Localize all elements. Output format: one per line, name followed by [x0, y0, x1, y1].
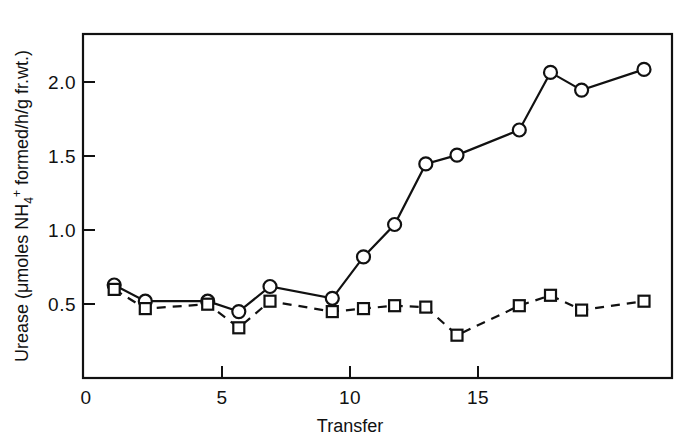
data-point-square-11: [420, 302, 431, 313]
data-point-square-2: [140, 303, 151, 314]
y-axis-title-suffix: formed/h/g fr.wt.): [12, 50, 32, 190]
x-axis-tick-labels: 5 10 15: [216, 387, 489, 408]
data-point-square-18: [639, 296, 650, 307]
data-point-circle-10: [388, 218, 401, 231]
data-point-circle-15: [544, 66, 557, 79]
data-point-square-16: [576, 305, 587, 316]
y-axis-title: Urease (μmoles NH4+ formed/h/g fr.wt.): [10, 50, 36, 362]
data-point-square-9: [358, 303, 369, 314]
data-series-layer: [108, 63, 651, 341]
data-point-square-8: [327, 306, 338, 317]
data-point-square-6: [265, 296, 276, 307]
data-point-square-1: [109, 284, 120, 295]
urease-transfer-line-chart: 2.0 1.5 1.0 0.5 0 5 10 15 Transfer Ureas…: [0, 0, 683, 439]
svg-text:Urease (μmoles NH4+ formed/h/g: Urease (μmoles NH4+ formed/h/g fr.wt.): [10, 50, 36, 362]
data-point-circle-12: [451, 149, 464, 162]
series-line-solid-circles: [114, 69, 644, 311]
data-point-circle-16: [575, 84, 588, 97]
y-tick-label-1-5: 1.5: [48, 146, 76, 167]
series-solid-circles: [108, 63, 651, 318]
data-point-circle-14: [513, 124, 526, 137]
x-axis-ticks: [222, 366, 478, 378]
y-tick-label-2-0: 2.0: [48, 72, 76, 93]
series-dashed-squares: [109, 284, 650, 341]
x-tick-label-10: 10: [339, 387, 361, 408]
figure-container: 2.0 1.5 1.0 0.5 0 5 10 15 Transfer Ureas…: [0, 0, 683, 439]
y-origin-label: 0: [80, 387, 91, 408]
series-line-dashed-squares: [114, 289, 644, 335]
y-tick-label-0-5: 0.5: [48, 294, 76, 315]
data-point-circle-5: [232, 305, 245, 318]
data-point-square-10: [389, 300, 400, 311]
y-axis-title-superscript: +: [10, 190, 24, 197]
y-tick-label-1-0: 1.0: [48, 220, 76, 241]
y-axis-title-prefix: Urease (μmoles NH: [12, 204, 32, 362]
data-point-circle-18: [638, 63, 651, 76]
data-point-square-4: [202, 299, 213, 310]
data-point-square-12: [452, 330, 463, 341]
data-point-square-15: [545, 290, 556, 301]
x-tick-label-15: 15: [467, 387, 489, 408]
y-axis-tick-labels: 2.0 1.5 1.0 0.5 0: [48, 72, 91, 408]
x-axis-title: Transfer: [317, 416, 383, 436]
y-axis-ticks: [83, 82, 95, 304]
data-point-square-14: [514, 300, 525, 311]
data-point-circle-11: [419, 157, 432, 170]
data-point-square-5: [233, 322, 244, 333]
y-axis-title-subscript: 4: [22, 197, 36, 204]
x-tick-label-5: 5: [216, 387, 227, 408]
data-point-circle-6: [264, 280, 277, 293]
data-point-circle-8: [326, 292, 339, 305]
data-point-circle-9: [357, 250, 370, 263]
